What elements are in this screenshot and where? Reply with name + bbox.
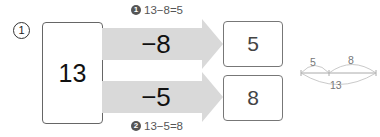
whole-number: 13	[59, 59, 87, 88]
whole-number-box: 13	[42, 22, 103, 124]
answer-2: 8	[247, 86, 259, 110]
bond-part-left: 5	[310, 56, 316, 68]
equation-1-text: 13−8=5	[144, 4, 183, 16]
equation-2: 2 13−5=8	[131, 120, 183, 132]
bond-total: 13	[330, 79, 342, 91]
problem-number: 1	[13, 22, 30, 39]
subtract-arrow-2: −5	[102, 72, 223, 122]
subtract-arrow-1: −8	[102, 19, 223, 69]
equation-marker-2: 2	[131, 121, 141, 131]
answer-box-1[interactable]: 5	[223, 21, 283, 67]
equation-1: 1 13−8=5	[131, 4, 183, 16]
bond-part-right: 8	[348, 54, 354, 66]
subtract-label-2: −5	[126, 72, 186, 122]
equation-2-text: 13−5=8	[144, 120, 183, 132]
number-bond-diagram: 5 8 13	[290, 52, 380, 97]
answer-box-2[interactable]: 8	[223, 75, 283, 121]
answer-1: 5	[247, 32, 259, 56]
subtract-label-1: −8	[126, 19, 186, 69]
equation-marker-1: 1	[131, 5, 141, 15]
